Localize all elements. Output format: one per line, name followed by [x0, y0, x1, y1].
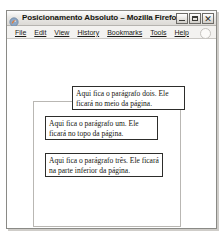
menu-item-history-label: History	[77, 29, 99, 36]
menu-item-file-label: File	[15, 29, 26, 36]
menu-item-tools-label: Tools	[150, 29, 166, 36]
menu-item-tools[interactable]: Tools	[146, 27, 170, 38]
menu-item-help-label: Help	[175, 29, 189, 36]
menu-item-bookmarks[interactable]: Bookmarks	[103, 27, 146, 38]
menu-item-file[interactable]: File	[11, 27, 30, 38]
menu-item-view[interactable]: View	[50, 27, 73, 38]
window-shadow-bottom	[8, 229, 219, 231]
close-icon: ✕	[203, 14, 213, 23]
window-controls: ✕	[176, 13, 215, 24]
maximize-icon	[192, 16, 198, 21]
menu-bar: File Edit View History Bookmarks Tools H…	[7, 26, 216, 39]
close-button[interactable]: ✕	[202, 13, 214, 24]
menu-item-history[interactable]: History	[73, 27, 103, 38]
paragraph-box-um: Aqui fica o parágrafo um. Ele ficará no …	[45, 116, 158, 140]
menu-item-edit[interactable]: Edit	[30, 27, 50, 38]
window-shadow-right	[217, 12, 219, 231]
menu-item-help[interactable]: Help	[171, 27, 193, 38]
menu-item-edit-label: Edit	[34, 29, 46, 36]
browser-window: Posicionamento Absoluto – Mozilla Firefo…	[6, 10, 217, 229]
window-title: Posicionamento Absoluto – Mozilla Firefo…	[22, 13, 176, 23]
paragraph-box-tres: Aqui fica o parágrafo três. Ele ficará n…	[45, 153, 163, 177]
paragraph-box-dois: Aqui fica o parágrafo dois. Ele ficará n…	[72, 86, 185, 110]
page-content: Aqui fica o parágrafo dois. Ele ficará n…	[7, 39, 216, 228]
menu-item-view-label: View	[54, 29, 69, 36]
menu-item-bookmarks-label: Bookmarks	[107, 29, 142, 36]
throbber-icon	[200, 28, 211, 39]
maximize-button[interactable]	[189, 13, 201, 24]
minimize-icon	[179, 20, 185, 21]
firefox-icon	[9, 13, 19, 23]
title-bar[interactable]: Posicionamento Absoluto – Mozilla Firefo…	[7, 11, 216, 26]
minimize-button[interactable]	[176, 13, 188, 24]
